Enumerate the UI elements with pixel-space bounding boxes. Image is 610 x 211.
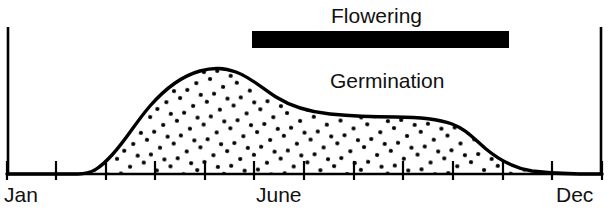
flowering-span-bar [252, 31, 509, 48]
x-tick-label-dec: Dec [556, 184, 593, 205]
chart-canvas [0, 0, 610, 211]
germination-label: Germination [330, 70, 444, 91]
x-tick-label-june: June [256, 184, 302, 205]
flowering-label: Flowering [331, 5, 422, 26]
x-tick-label-jan: Jan [4, 184, 38, 205]
phenology-chart: Flowering Germination Jan June Dec [0, 0, 610, 211]
